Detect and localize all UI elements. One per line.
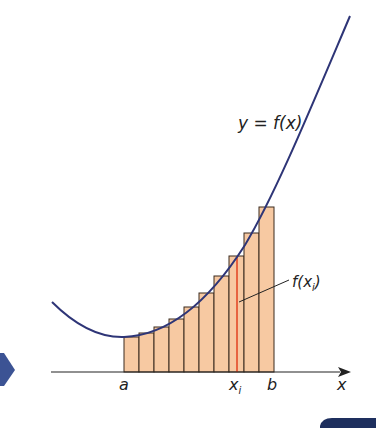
- nav-arrow-icon[interactable]: [0, 353, 15, 386]
- corner-tab[interactable]: [320, 418, 376, 428]
- height-label: f(xi): [292, 273, 321, 293]
- curve-label: y = f(x): [237, 113, 302, 133]
- tick-label-b: b: [267, 375, 277, 394]
- riemann-sum-diagram: y = f(x) f(xi) a xi b x: [0, 0, 376, 428]
- tick-label-xi: xi: [228, 375, 241, 396]
- tick-label-a: a: [119, 375, 129, 394]
- axis-label-x: x: [336, 375, 347, 394]
